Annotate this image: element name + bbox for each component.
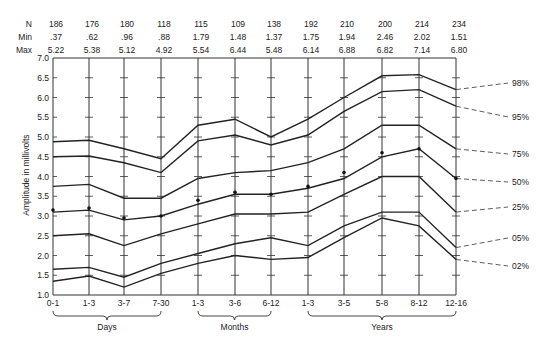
y-tick-label: 4.0 — [37, 172, 49, 182]
mean-point — [380, 151, 384, 155]
group-brace — [198, 311, 271, 320]
y-tick-label: 6.5 — [37, 73, 49, 83]
percentile-line-95 — [53, 90, 456, 173]
percentile-label: 50% — [512, 177, 529, 187]
y-tick-label: 3.0 — [37, 211, 49, 221]
x-tick-label: 7-30 — [152, 298, 169, 308]
x-tick-label: 1-3 — [192, 298, 205, 308]
y-tick-label: 2.5 — [37, 231, 49, 241]
percentile-line-02 — [53, 218, 456, 287]
percentile-label: 95% — [512, 112, 529, 122]
y-tick-label: 5.0 — [37, 132, 49, 142]
mean-point — [454, 177, 458, 181]
y-tick-label: 1.5 — [37, 270, 49, 280]
x-tick-label: 3-7 — [118, 298, 131, 308]
x-tick-label: 12-16 — [445, 298, 467, 308]
x-tick-label: 5-8 — [376, 298, 389, 308]
mean-point — [417, 147, 421, 151]
x-tick-label: 3-5 — [338, 298, 351, 308]
y-tick-label: 5.5 — [37, 112, 49, 122]
group-brace — [308, 311, 456, 320]
percentile-label: 75% — [512, 149, 529, 159]
percentile-label: 98% — [512, 78, 529, 88]
percentile-line-05 — [53, 212, 456, 277]
x-tick-label: 8-12 — [410, 298, 427, 308]
group-label: Days — [97, 322, 116, 332]
leader-line — [456, 106, 508, 117]
percentile-line-25 — [53, 177, 456, 246]
x-tick-label: 0-1 — [47, 298, 60, 308]
group-label: Years — [371, 322, 392, 332]
x-tick-label: 1-3 — [302, 298, 315, 308]
x-tick-label: 6-12 — [262, 298, 279, 308]
mean-point — [196, 198, 200, 202]
leader-line — [456, 83, 508, 90]
leader-line — [456, 207, 508, 212]
group-brace — [53, 311, 161, 320]
y-tick-label: 3.5 — [37, 191, 49, 201]
mean-point — [159, 214, 163, 218]
y-tick-label: 2.0 — [37, 251, 49, 261]
y-tick-label: 4.5 — [37, 152, 49, 162]
percentile-label: 25% — [512, 202, 529, 212]
mean-point — [51, 208, 55, 212]
leader-line — [456, 259, 508, 266]
x-tick-label: 3-6 — [229, 298, 242, 308]
percentile-label: 05% — [512, 233, 529, 243]
mean-point — [122, 216, 126, 220]
x-tick-label: 1-3 — [83, 298, 96, 308]
mean-point — [306, 185, 310, 189]
leader-line — [456, 149, 508, 154]
group-label: Months — [221, 322, 249, 332]
percentile-line-98 — [53, 75, 456, 159]
leader-line — [456, 178, 508, 182]
percentile-line-50 — [53, 149, 456, 220]
percentile-label: 02% — [512, 261, 529, 271]
percentile-chart: 1.01.52.02.53.03.54.04.55.05.56.06.57.00… — [0, 0, 550, 347]
percentile-line-75 — [53, 125, 456, 198]
mean-point — [342, 171, 346, 175]
y-tick-label: 7.0 — [37, 53, 49, 63]
y-axis-title: Amplitude in millivolts — [21, 115, 31, 235]
y-tick-label: 6.0 — [37, 93, 49, 103]
mean-point — [87, 206, 91, 210]
mean-point — [269, 192, 273, 196]
leader-line — [456, 238, 508, 248]
mean-point — [233, 191, 237, 195]
